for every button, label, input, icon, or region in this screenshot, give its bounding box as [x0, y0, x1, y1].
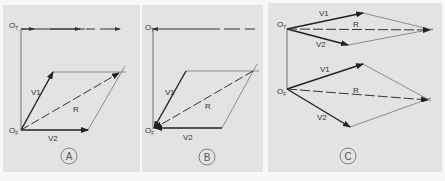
label-top-r: R [353, 20, 359, 29]
label-top-v2: V2 [316, 40, 326, 49]
vector-diagram: OT OF V1 V2 R A OT OF V1 V2 R B [0, 0, 445, 181]
label-r: R [205, 102, 211, 111]
panel-b-label: B [204, 152, 211, 163]
top-r-vector [287, 29, 430, 30]
label-v1: V1 [165, 88, 175, 97]
label-v2: V2 [48, 134, 58, 143]
label-front-r: R [353, 86, 359, 95]
v1-vector [21, 72, 53, 130]
panel-a-label: A [66, 151, 73, 162]
panel-c-diagram: OT OF V1 R V2 V1 R V2 C [277, 9, 433, 164]
label-v1: V1 [31, 88, 41, 97]
panel-b-diagram: OT OF V1 V2 R B [145, 23, 259, 165]
label-of: OF [9, 126, 18, 136]
label-ot: OT [9, 21, 18, 31]
label-of: OF [277, 87, 286, 97]
label-r: R [73, 105, 79, 114]
panel-c-label: C [344, 151, 351, 162]
label-front-v1: V1 [320, 65, 330, 74]
label-ot: OT [145, 23, 154, 33]
label-top-v1: V1 [319, 9, 329, 18]
label-ot: OT [277, 20, 286, 30]
label-v2: V2 [183, 133, 193, 142]
label-front-v2: V2 [317, 113, 327, 122]
panel-a-diagram: OT OF V1 V2 R A [9, 21, 126, 164]
